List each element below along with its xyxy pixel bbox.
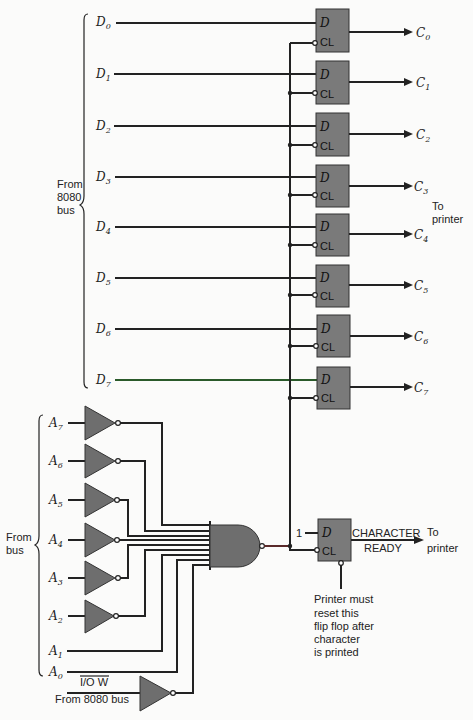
character-ready-line2: READY xyxy=(364,542,403,554)
latch-6: D CL C6 xyxy=(288,315,428,357)
iow-inverter: I/O W From 8080 bus xyxy=(55,565,211,711)
svg-text:D: D xyxy=(320,373,331,387)
svg-text:C1: C1 xyxy=(416,76,430,92)
svg-text:D6: D6 xyxy=(95,322,111,338)
d-input-one: 1 xyxy=(296,527,302,539)
svg-text:CL: CL xyxy=(322,545,336,557)
svg-text:D: D xyxy=(319,271,330,285)
svg-text:C0: C0 xyxy=(416,26,430,42)
svg-text:D: D xyxy=(320,322,331,336)
svg-text:flip flop after: flip flop after xyxy=(314,620,374,632)
inverter-a7: A7 xyxy=(48,406,211,525)
svg-text:A2: A2 xyxy=(48,609,63,625)
to-printer-label-line1: To xyxy=(432,200,444,212)
latch-1: D CL C1 xyxy=(288,61,430,104)
svg-text:CL: CL xyxy=(320,88,334,100)
svg-text:A1: A1 xyxy=(48,644,63,660)
data-input-d2: D2 xyxy=(95,119,317,135)
iow-source-label: From 8080 bus xyxy=(55,693,129,705)
svg-text:D: D xyxy=(319,16,330,30)
status-to-printer-line2: printer xyxy=(427,542,459,554)
inverter-a3: A3 xyxy=(48,545,211,595)
svg-text:CL: CL xyxy=(320,36,334,48)
svg-text:D: D xyxy=(319,120,330,134)
svg-text:CL: CL xyxy=(320,290,334,302)
svg-text:C7: C7 xyxy=(414,381,429,397)
svg-text:A5: A5 xyxy=(48,493,63,509)
svg-text:D4: D4 xyxy=(95,220,111,236)
svg-text:C4: C4 xyxy=(414,228,428,244)
svg-text:D: D xyxy=(319,171,330,185)
data-bus-label-line2: 8080 xyxy=(57,191,81,203)
svg-text:D: D xyxy=(319,68,330,82)
inverter-a4: A4 xyxy=(48,523,211,557)
svg-text:CL: CL xyxy=(321,341,335,353)
inverter-a5: A5 xyxy=(48,483,211,536)
status-flip-flop: 1 D CL CHARACTER READY To printer xyxy=(290,519,459,589)
inverter-a6: A6 xyxy=(48,444,211,531)
svg-text:A3: A3 xyxy=(48,571,63,587)
address-bus-brace xyxy=(35,415,43,676)
svg-text:D5: D5 xyxy=(95,271,111,287)
svg-text:CL: CL xyxy=(320,190,334,202)
reset-note: Printer must reset this flip flop after … xyxy=(314,593,374,658)
svg-text:character: character xyxy=(314,633,360,645)
iow-label: I/O W xyxy=(80,676,109,688)
svg-text:C2: C2 xyxy=(416,128,430,144)
latch-5: D CL C5 xyxy=(288,265,428,307)
data-input-d6: D6 xyxy=(95,322,317,338)
svg-text:D1: D1 xyxy=(95,67,111,83)
svg-text:C6: C6 xyxy=(414,330,428,346)
data-input-d0: D0 xyxy=(95,15,317,31)
svg-text:CL: CL xyxy=(320,240,334,252)
svg-text:Printer must: Printer must xyxy=(314,593,373,605)
data-bus-label-line3: bus xyxy=(57,204,75,216)
svg-text:D: D xyxy=(319,220,330,234)
svg-text:A0: A0 xyxy=(48,665,63,681)
svg-text:CL: CL xyxy=(321,392,335,404)
svg-text:D2: D2 xyxy=(95,119,111,135)
latch-7: D CL C7 xyxy=(288,367,429,409)
nand-gate xyxy=(210,521,292,570)
latch-3: D CL C3 xyxy=(288,165,428,207)
svg-text:D3: D3 xyxy=(95,170,111,186)
latch-4: D CL C4 xyxy=(288,214,428,256)
data-input-d4: D4 xyxy=(95,220,317,236)
latch-2: D CL C2 xyxy=(288,113,430,156)
svg-text:A4: A4 xyxy=(48,533,63,549)
svg-text:C5: C5 xyxy=(414,279,428,295)
to-printer-label-line2: printer xyxy=(432,213,464,225)
circuit-diagram: From 8080 bus D0 D1 D2 D3 D4 D5 D6 D7 D … xyxy=(0,0,473,720)
svg-text:CL: CL xyxy=(320,140,334,152)
latch-0: D CL C0 xyxy=(290,9,430,52)
svg-text:A6: A6 xyxy=(48,454,63,470)
svg-text:C3: C3 xyxy=(414,180,428,196)
data-input-d3: D3 xyxy=(95,170,317,186)
svg-text:A7: A7 xyxy=(48,416,64,432)
svg-text:D: D xyxy=(321,526,332,540)
svg-text:reset this: reset this xyxy=(314,607,359,619)
inverter-a2: A2 xyxy=(48,550,211,633)
data-input-d1: D1 xyxy=(95,67,317,83)
address-bus-label-line2: bus xyxy=(6,544,24,556)
data-input-d5: D5 xyxy=(95,271,317,287)
svg-text:D0: D0 xyxy=(95,15,111,31)
svg-text:is printed: is printed xyxy=(314,646,359,658)
svg-text:D7: D7 xyxy=(95,373,112,389)
character-ready-line1: CHARACTER xyxy=(352,527,421,539)
data-input-d7: D7 xyxy=(95,373,317,389)
address-a1: A1 xyxy=(48,555,211,660)
status-to-printer-line1: To xyxy=(427,526,439,538)
data-bus-label-line1: From xyxy=(57,178,83,190)
address-bus-label-line1: From xyxy=(6,531,32,543)
